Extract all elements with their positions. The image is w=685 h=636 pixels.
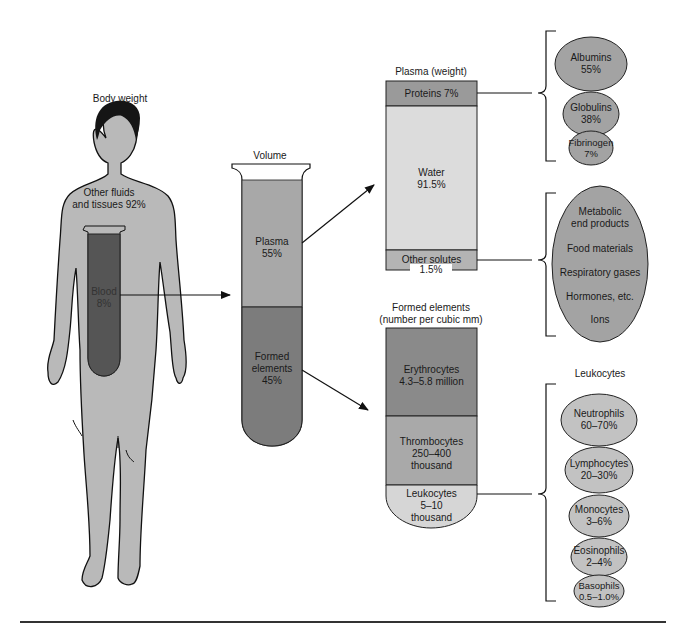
eosinophils-label: Eosinophils bbox=[559, 545, 639, 557]
formed-label: Formed bbox=[242, 351, 302, 363]
lymphocytes-label: Lymphocytes bbox=[559, 458, 639, 470]
basophils-label: Basophils bbox=[559, 580, 639, 592]
formed-pct: 45% bbox=[242, 375, 302, 387]
thrombocytes-label: Thrombocytes bbox=[386, 436, 477, 448]
formed-label-2: elements bbox=[242, 363, 302, 375]
erythrocytes-value: 4.3–5.8 million bbox=[386, 376, 477, 388]
albumins-pct: 55% bbox=[556, 64, 626, 76]
globulins-pct: 38% bbox=[556, 114, 626, 126]
thrombocytes-unit: thousand bbox=[386, 460, 477, 472]
proteins-label: Proteins 7% bbox=[386, 88, 477, 100]
monocytes-label: Monocytes bbox=[559, 504, 639, 516]
arrow-plasma bbox=[302, 185, 374, 243]
blood-label: Blood bbox=[84, 286, 124, 298]
fibrinogen-label: Fibrinogen bbox=[556, 137, 626, 149]
neutrophils-pct: 60–70% bbox=[559, 420, 639, 432]
arrow-formed bbox=[302, 370, 368, 410]
fibrinogen-pct: 7% bbox=[556, 148, 626, 160]
water-label: Water bbox=[386, 167, 477, 179]
leukocytes-unit: thousand bbox=[386, 512, 477, 524]
proteins-bracket bbox=[538, 31, 556, 161]
solute-food: Food materials bbox=[552, 243, 648, 255]
formed-title-2: (number per cubic mm) bbox=[371, 314, 491, 326]
solute-metabolic: Metabolic bbox=[552, 206, 648, 218]
globulins-label: Globulins bbox=[556, 102, 626, 114]
lymphocytes-pct: 20–30% bbox=[559, 470, 639, 482]
solute-ions: Ions bbox=[552, 314, 648, 326]
water-pct: 91.5% bbox=[386, 179, 477, 191]
solute-metabolic-2: end products bbox=[552, 218, 648, 230]
leukocytes-label: Leukocytes bbox=[386, 488, 477, 500]
solute-gases: Respiratory gases bbox=[552, 267, 648, 279]
formed-title: Formed elements bbox=[371, 302, 491, 314]
leukocytes-title: Leukocytes bbox=[560, 368, 640, 380]
basophils-pct: 0.5–1.0% bbox=[559, 591, 639, 603]
monocytes-pct: 3–6% bbox=[559, 516, 639, 528]
leukocytes-bracket bbox=[538, 384, 556, 601]
body-weight-label: Body weight bbox=[70, 93, 170, 105]
albumins-label: Albumins bbox=[556, 52, 626, 64]
volume-label: Volume bbox=[240, 150, 300, 162]
other-fluids-label-2: and tissues 92% bbox=[54, 199, 164, 211]
other-solutes-pct: 1.5% bbox=[410, 264, 452, 276]
neutrophils-label: Neutrophils bbox=[559, 408, 639, 420]
plasma-pct: 55% bbox=[242, 248, 302, 260]
thrombocytes-value: 250–400 bbox=[386, 448, 477, 460]
leukocytes-value: 5–10 bbox=[386, 500, 477, 512]
volume-tube-icon bbox=[232, 164, 310, 446]
plasma-label: Plasma bbox=[242, 236, 302, 248]
eosinophils-pct: 2–4% bbox=[559, 557, 639, 569]
plasma-weight-title: Plasma (weight) bbox=[376, 66, 486, 78]
blood-pct: 8% bbox=[84, 298, 124, 310]
erythrocytes-label: Erythrocytes bbox=[386, 364, 477, 376]
other-fluids-label: Other fluids bbox=[54, 187, 164, 199]
solute-hormones: Hormones, etc. bbox=[552, 291, 648, 303]
